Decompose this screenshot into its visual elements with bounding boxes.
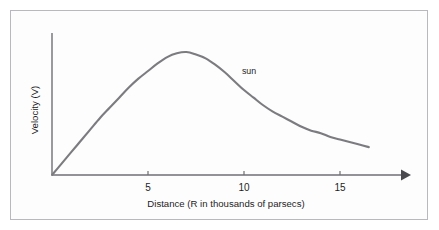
x-tick-label-15: 15 [334,182,346,193]
x-tick-label-5: 5 [145,182,151,193]
chart-screenshot: 5 10 15 sun Distance (R in thousands of … [0,0,439,230]
data-series-line [52,52,369,175]
rotation-curve-plot: 5 10 15 sun Distance (R in thousands of … [0,0,439,230]
y-axis-title: Velocity (V) [29,86,40,135]
sun-annotation-label: sun [242,66,256,76]
x-tick-label-10: 10 [238,182,250,193]
x-axis-arrow-icon [401,170,411,181]
x-axis-title: Distance (R in thousands of parsecs) [147,198,304,209]
